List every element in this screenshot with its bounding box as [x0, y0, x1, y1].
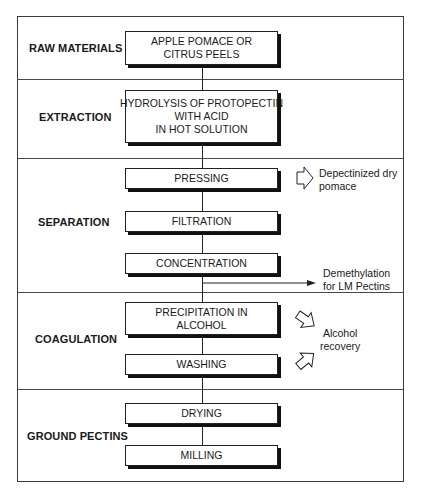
- side-text-line: Depectinized dry: [319, 167, 397, 180]
- side-text-line: Demethylation: [323, 267, 390, 280]
- side-text-line: for LM Pectins: [323, 280, 390, 293]
- side-text-line: recovery: [320, 340, 360, 353]
- hollow-arrow-up-right-icon: [293, 347, 320, 374]
- arrows-overlay: [0, 0, 422, 497]
- side-text-line: pomace: [319, 180, 397, 193]
- side-output-demethylation: Demethylation for LM Pectins: [323, 267, 390, 293]
- line-arrow-right-icon: [203, 280, 316, 286]
- side-text-line: Alcohol: [320, 327, 360, 340]
- hollow-arrow-down-right-icon: [293, 307, 320, 333]
- hollow-arrow-right-icon: [297, 167, 313, 189]
- side-output-pomace: Depectinized dry pomace: [319, 167, 397, 193]
- side-output-alcohol-recovery: Alcohol recovery: [320, 327, 360, 353]
